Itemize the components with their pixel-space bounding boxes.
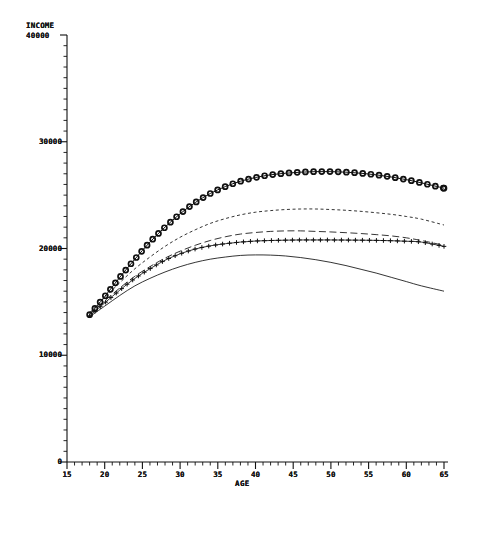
x-axis-ticks (67, 462, 444, 469)
series-level-4 (90, 209, 444, 313)
series-level-1 (90, 255, 444, 317)
axis-lines (67, 35, 448, 462)
series-level-5 (87, 169, 446, 317)
plot-area (0, 0, 477, 542)
chart-canvas: INCOME40000 AGE 0100002000030000 1520253… (0, 0, 477, 542)
series-lines (87, 169, 446, 318)
y-axis-ticks (60, 35, 67, 462)
chart-legend: LEGEND: EDUC LEVEL 1LEVEL 2LEVEL 3LEVEL … (0, 494, 477, 524)
